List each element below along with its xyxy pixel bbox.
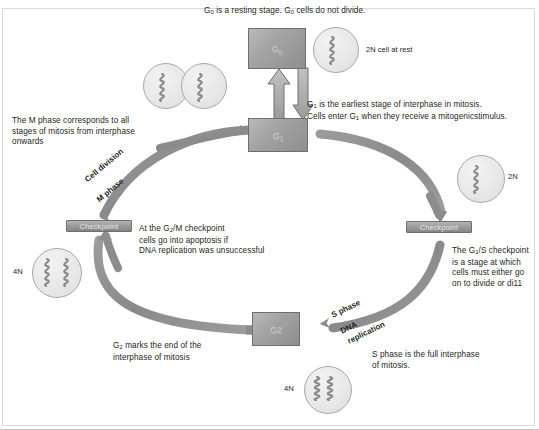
checkpoint-g2m-label: Checkpoint (80, 222, 118, 231)
cell-g2m-4n (32, 248, 82, 298)
caption-g1s-checkpoint: The G1/S checkpointis a stage at whichce… (452, 246, 538, 289)
caption-g2-description: G2 marks the end of theinterphase of mit… (113, 341, 263, 363)
arc-g1-to-s (320, 134, 441, 212)
caption-top: G0 is a resting stage. G0 cells do not d… (204, 6, 365, 18)
caption-g2m-checkpoint: At the G2/M checkpointcells go into apop… (139, 224, 289, 257)
cell-dividing-right (181, 63, 227, 109)
caption-m-phase: The M phase corresponds to all stages of… (12, 116, 172, 148)
cell-label-g1s-2n: 2N (508, 172, 518, 181)
arc-s-phase (333, 245, 440, 328)
checkpoint-g2m[interactable]: Checkpoint (66, 220, 132, 232)
phase-label-g0: G0 (272, 44, 283, 54)
block-arrow-up-g1-to-g0 (268, 69, 290, 120)
caption-g1-description: G1 is the earliest stage of interphase i… (307, 100, 539, 124)
phase-box-g0[interactable]: G0 (248, 28, 306, 69)
arrow-into-g2m-checkpoint (106, 236, 118, 268)
phase-label-g2: G2 (270, 325, 282, 335)
cell-resting-2n (313, 27, 359, 73)
caption-s-phase: S phase is the full interphase of mitosi… (372, 350, 522, 371)
cell-s-phase-4n (304, 366, 352, 414)
checkpoint-g1s-label: Checkpoint (420, 223, 458, 232)
cell-label-s-phase-4n: 4N (284, 384, 294, 393)
phase-box-g1[interactable]: G1 (248, 118, 308, 152)
checkpoint-g1s[interactable]: Checkpoint (406, 221, 472, 233)
arrowhead-s-phase (319, 318, 330, 329)
phase-label-g1: G1 (273, 131, 284, 141)
cell-cycle-diagram: G0 G1 G2 Checkpoint Checkpoint 2N cell a… (0, 0, 539, 430)
cell-g1s-2n (457, 155, 505, 203)
cell-label-resting-2n: 2N cell at rest (366, 45, 412, 54)
cell-label-g2m-4n: 4N (13, 267, 23, 276)
